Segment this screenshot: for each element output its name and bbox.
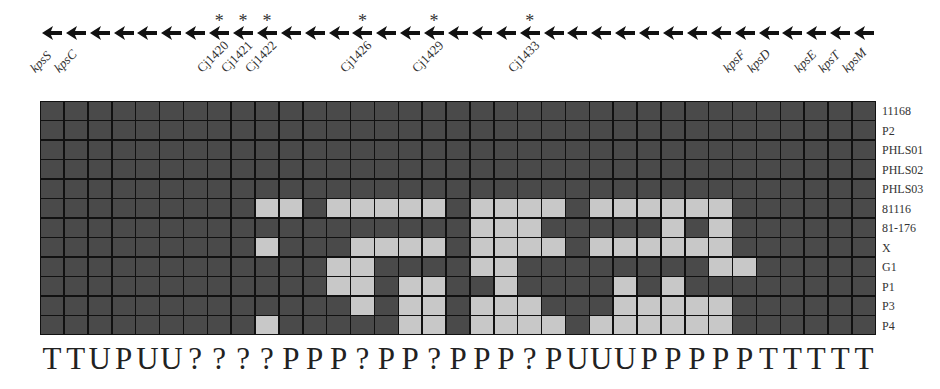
grid-cell-absent — [41, 141, 63, 159]
class-letter: ? — [236, 341, 250, 377]
grid-cell-absent — [709, 141, 731, 159]
grid-cell-absent — [829, 199, 851, 217]
grid-cell-absent — [447, 258, 469, 276]
grid-cell-absent — [566, 180, 588, 198]
grid-cell-absent — [829, 316, 851, 334]
grid-cell-absent — [566, 141, 588, 159]
class-letter: T — [66, 341, 85, 377]
grid-cell-absent — [113, 277, 135, 295]
grid-cell-absent — [662, 141, 684, 159]
grid-cell-absent — [566, 277, 588, 295]
grid-cell-absent — [471, 121, 493, 139]
class-letter: T — [831, 341, 850, 377]
grid-cell-absent — [232, 141, 254, 159]
grid-cell-absent — [208, 277, 230, 295]
grid-cell-absent — [65, 160, 87, 178]
grid-cell-absent — [423, 180, 445, 198]
grid-cell-present — [327, 258, 349, 276]
strain-label: 81116 — [882, 202, 911, 217]
grid-cell-absent — [208, 121, 230, 139]
class-letter: P — [688, 341, 705, 377]
asterisk-marker: * — [215, 11, 224, 32]
grid-cell-absent — [853, 141, 875, 159]
grid-cell-absent — [304, 238, 326, 256]
grid-cell-absent — [375, 316, 397, 334]
grid-cell-absent — [351, 160, 373, 178]
grid-cell-absent — [709, 102, 731, 120]
grid-cell-absent — [853, 102, 875, 120]
grid-cell-absent — [280, 160, 302, 178]
grid-cell-absent — [638, 160, 660, 178]
grid-cell-present — [471, 199, 493, 217]
grid-cell-absent — [686, 219, 708, 237]
grid-cell-absent — [542, 102, 564, 120]
grid-cell-absent — [590, 219, 612, 237]
presence-absence-grid — [40, 101, 876, 335]
grid-cell-absent — [829, 297, 851, 315]
grid-cell-absent — [113, 102, 135, 120]
grid-cell-absent — [709, 160, 731, 178]
grid-cell-absent — [709, 277, 731, 295]
grid-cell-absent — [65, 102, 87, 120]
grid-cell-absent — [65, 258, 87, 276]
grid-cell-absent — [686, 141, 708, 159]
grid-cell-absent — [89, 297, 111, 315]
grid-cell-absent — [662, 121, 684, 139]
class-letter: ? — [260, 341, 274, 377]
grid-cell-absent — [160, 258, 182, 276]
grid-cell-absent — [160, 199, 182, 217]
grid-cell-absent — [232, 258, 254, 276]
grid-cell-present — [495, 316, 517, 334]
grid-cell-absent — [805, 180, 827, 198]
gene-label: kpsF — [719, 47, 748, 76]
grid-cell-absent — [447, 199, 469, 217]
grid-cell-present — [662, 219, 684, 237]
strain-label: PHLS03 — [882, 182, 923, 197]
grid-cell-present — [399, 199, 421, 217]
grid-cell-absent — [160, 277, 182, 295]
grid-cell-absent — [829, 258, 851, 276]
class-letter: U — [614, 341, 636, 377]
grid-cell-absent — [208, 258, 230, 276]
grid-cell-absent — [518, 141, 540, 159]
grid-cell-absent — [614, 258, 636, 276]
grid-cell-absent — [709, 121, 731, 139]
grid-cell-absent — [853, 121, 875, 139]
grid-cell-absent — [136, 160, 158, 178]
grid-cell-present — [638, 316, 660, 334]
grid-cell-absent — [638, 141, 660, 159]
grid-cell-absent — [160, 316, 182, 334]
class-letter: P — [545, 341, 562, 377]
grid-cell-present — [662, 297, 684, 315]
grid-cell-absent — [566, 102, 588, 120]
grid-cell-absent — [232, 199, 254, 217]
grid-cell-absent — [399, 180, 421, 198]
grid-cell-absent — [781, 180, 803, 198]
grid-cell-absent — [208, 219, 230, 237]
grid-cell-absent — [41, 258, 63, 276]
gene-label: Cj1429 — [409, 38, 447, 76]
grid-cell-absent — [614, 121, 636, 139]
grid-cell-absent — [829, 102, 851, 120]
grid-cell-absent — [447, 180, 469, 198]
grid-cell-present — [733, 258, 755, 276]
grid-cell-absent — [566, 238, 588, 256]
gene-label: kpsT — [815, 47, 844, 76]
grid-cell-absent — [805, 199, 827, 217]
grid-cell-present — [495, 258, 517, 276]
grid-cell-absent — [304, 219, 326, 237]
class-letter: T — [807, 341, 826, 377]
grid-cell-absent — [375, 160, 397, 178]
grid-cell-present — [495, 219, 517, 237]
grid-cell-absent — [614, 102, 636, 120]
grid-cell-present — [495, 277, 517, 295]
grid-cell-present — [614, 277, 636, 295]
grid-cell-absent — [113, 297, 135, 315]
grid-cell-absent — [351, 316, 373, 334]
grid-cell-absent — [757, 121, 779, 139]
grid-cell-present — [327, 277, 349, 295]
grid-cell-absent — [232, 121, 254, 139]
grid-cell-absent — [853, 258, 875, 276]
grid-cell-present — [423, 277, 445, 295]
grid-cell-present — [351, 297, 373, 315]
